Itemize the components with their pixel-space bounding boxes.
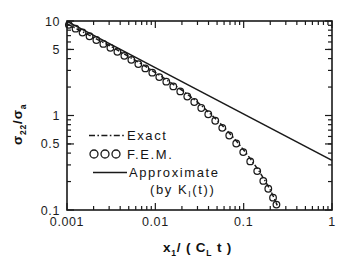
legend-note-approximate: (by KI(t)) [150, 182, 215, 199]
x-tick-label: 0.01 [142, 215, 169, 229]
y-tick-label: 0.5 [41, 137, 60, 151]
legend-label-fem: F.E.M. [127, 147, 173, 162]
y-axis-title-sub: 22 [18, 124, 28, 135]
y-axis-title-sub2: a [18, 104, 28, 110]
x-tick-label: 1 [328, 215, 336, 229]
legend-label-approximate: Approximate [129, 165, 220, 180]
x-axis-title-mid: / ( C [177, 240, 207, 255]
legend-label-exact: Exact [127, 128, 168, 143]
y-axis-title-sym2: σ [10, 109, 25, 119]
figure-root: 0.0010.010.11 0.10.51510 x1/ ( CL t ) σ2… [0, 0, 350, 268]
svg-text:(by KI(t)): (by KI(t)) [150, 182, 215, 199]
y-axis-title: σ22/σa [10, 104, 28, 145]
svg-text:σ22/σa: σ22/σa [10, 104, 28, 145]
legend-note-suffix: (t)) [192, 182, 215, 197]
y-tick-label: 0.1 [41, 204, 60, 218]
x-tick-label: 0.1 [234, 215, 253, 229]
y-axis-title-sym: σ [10, 135, 25, 145]
y-tick-label: 10 [45, 15, 60, 29]
y-tick-label: 5 [52, 43, 60, 57]
y-tick-label: 1 [52, 109, 60, 123]
log-log-chart: 0.0010.010.11 0.10.51510 x1/ ( CL t ) σ2… [0, 0, 350, 268]
x-axis-title-tail: t ) [212, 240, 232, 255]
legend-note-prefix: (by K [150, 182, 188, 197]
x-axis-title-main: x [163, 240, 171, 255]
